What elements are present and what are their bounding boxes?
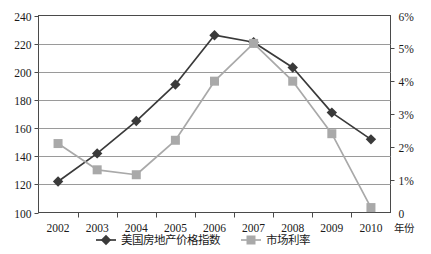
legend-label: 市场利率 <box>266 233 310 247</box>
x-axis-tick-label: 2002 <box>47 222 70 234</box>
left-axis-tick-label: 240 <box>14 11 32 23</box>
left-axis-tick-label: 220 <box>14 39 32 51</box>
right-axis-tick-label: 4% <box>399 76 415 88</box>
x-axis-tick-label: 2004 <box>125 222 148 234</box>
legend-label: 美国房地产价格指数 <box>121 233 221 247</box>
x-axis-tick-label: 2006 <box>203 222 226 234</box>
left-axis-tick-label: 160 <box>14 123 32 135</box>
data-point-marker <box>132 170 141 179</box>
dual-axis-line-chart: 100120140160180200220240 01%2%3%4%5%6% 2… <box>0 0 431 254</box>
chart-container: 100120140160180200220240 01%2%3%4%5%6% 2… <box>0 0 431 254</box>
data-point-marker <box>288 77 297 86</box>
data-point-marker <box>210 77 219 86</box>
x-axis-tick-label: 2007 <box>242 222 265 234</box>
left-axis-tick-label: 140 <box>14 151 32 163</box>
x-axis-tick-label: 2005 <box>164 222 187 234</box>
data-point-marker <box>366 203 375 212</box>
data-point-marker <box>327 129 336 138</box>
x-axis-tick-label: 2010 <box>359 222 382 234</box>
right-axis-tick-label: 6% <box>399 11 415 23</box>
legend-marker <box>247 236 256 245</box>
right-axis-tick-label: 1% <box>399 175 415 187</box>
left-axis-tick-label: 120 <box>14 179 32 191</box>
x-axis-tick-label: 2009 <box>320 222 343 234</box>
data-point-marker <box>171 136 180 145</box>
data-point-marker <box>54 139 63 148</box>
left-axis-tick-label: 180 <box>14 95 32 107</box>
right-axis-tick-label: 3% <box>399 109 415 121</box>
right-axis-tick-label: 0 <box>399 208 405 220</box>
right-axis-tick-label: 2% <box>399 142 415 154</box>
left-axis-tick-label: 100 <box>14 208 32 220</box>
data-point-marker <box>249 39 258 48</box>
chart-legend: 美国房地产价格指数市场利率 <box>96 233 310 247</box>
data-point-marker <box>93 165 102 174</box>
x-axis-tick-label: 2008 <box>281 222 304 234</box>
x-axis-label: 年份 <box>394 222 415 234</box>
right-axis-tick-label: 5% <box>399 43 415 55</box>
x-axis-tick-label: 2003 <box>86 222 109 234</box>
left-axis-tick-label: 200 <box>14 67 32 79</box>
